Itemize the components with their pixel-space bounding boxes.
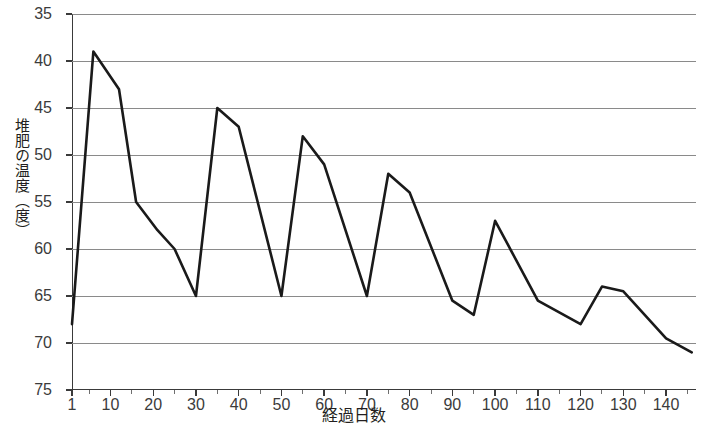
x-tick-minor-75 [388, 390, 389, 394]
y-tick-label-70: 40 [12, 53, 52, 69]
y-tick-label-45: 65 [12, 288, 52, 304]
y-tick-label-40: 70 [12, 335, 52, 351]
x-tick-minor-65 [345, 390, 346, 394]
x-tick-minor-35 [217, 390, 218, 394]
y-tick-label-50: 60 [12, 241, 52, 257]
y-axis-title: 堆肥の温度（度） [3, 118, 29, 238]
x-tick-minor-115 [559, 390, 560, 394]
y-tick-label-55: 55 [12, 194, 52, 210]
x-tick-minor-125 [601, 390, 602, 394]
y-tick-label-65: 45 [12, 100, 52, 116]
line-chart: 堆肥の温度（度） 757065605550454035 110203040506… [0, 0, 708, 433]
x-axis-title: 経過日数 [0, 406, 708, 426]
plot-area: 757065605550454035 110203040506070809010… [72, 14, 696, 390]
y-tick-label-60: 50 [12, 147, 52, 163]
x-tick-minor-5 [89, 390, 90, 394]
x-tick-minor-105 [516, 390, 517, 394]
series-line-temperature [72, 14, 696, 390]
y-tick-label-75: 35 [12, 6, 52, 22]
x-tick-minor-55 [302, 390, 303, 394]
x-tick-minor-145 [687, 390, 688, 394]
x-tick-minor-25 [174, 390, 175, 394]
x-tick-minor-95 [473, 390, 474, 394]
x-tick-minor-85 [431, 390, 432, 394]
x-tick-minor-15 [131, 390, 132, 394]
x-tick-minor-45 [260, 390, 261, 394]
x-tick-minor-135 [644, 390, 645, 394]
